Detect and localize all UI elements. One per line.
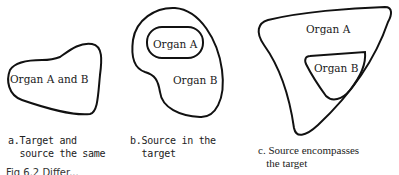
label-organ-a: Organ A <box>306 24 350 35</box>
caption-b-line1: b.Source in the <box>130 134 216 147</box>
label-organ-b: Organ B <box>173 75 217 86</box>
caption-b-line2: target <box>130 147 176 160</box>
organ-b-inner-outline <box>305 52 365 99</box>
caption-a-line1: a.Target and <box>8 134 77 147</box>
label-organ-a-and-b: Organ A and B <box>10 74 88 85</box>
caption-c-line1: c. Source encompasses <box>258 144 359 157</box>
label-organ-b: Organ B <box>314 63 358 74</box>
figure-caption: Fig 6.2 Differ... <box>6 167 79 175</box>
label-organ-a: Organ A <box>153 39 197 50</box>
organ-b-outline <box>132 8 223 117</box>
caption-c-line2: the target <box>258 157 307 170</box>
caption-a-line2: source the same <box>8 147 105 160</box>
